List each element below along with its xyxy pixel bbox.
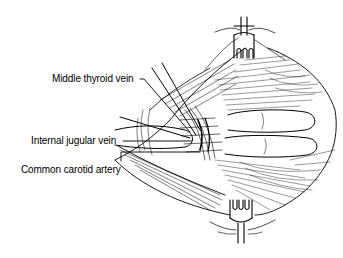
label-common-carotid-artery: Common carotid artery	[21, 164, 121, 176]
lower-left-muscle	[118, 146, 225, 210]
surgical-illustration	[0, 0, 343, 258]
common-carotid-artery-leader	[121, 152, 200, 161]
bottom-retractor-icon	[210, 200, 275, 243]
top-retractor-icon	[205, 17, 285, 70]
upper-left-muscle	[150, 60, 238, 116]
label-internal-jugular-vein: Internal jugular vein	[31, 135, 116, 147]
label-middle-thyroid-vein: Middle thyroid vein	[52, 73, 133, 85]
sternocleidomastoid-hatching	[215, 56, 322, 110]
